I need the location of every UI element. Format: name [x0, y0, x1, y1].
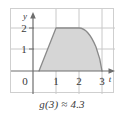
x-tick-label-2: 2 — [76, 75, 82, 87]
y-axis-label: y — [22, 11, 27, 21]
plot-area: y t 2 1 0 1 2 3 — [10, 8, 114, 93]
y-tick-label-1: 1 — [21, 43, 27, 55]
x-axis-label: t — [109, 74, 112, 84]
x-tick-label-3: 3 — [99, 75, 105, 87]
x-tick-label-1: 1 — [53, 75, 59, 87]
x-tick-label-0: 0 — [22, 75, 28, 87]
caption-text: g(3) ≈ 4.3 — [39, 98, 85, 110]
y-axis — [30, 12, 36, 94]
y-tick-label-2: 2 — [21, 22, 27, 34]
shaded-area — [39, 28, 102, 71]
plot-svg: y t 2 1 0 1 2 3 — [11, 9, 115, 94]
figure-caption: g(3) ≈ 4.3 — [0, 98, 124, 110]
figure-container: y t 2 1 0 1 2 3 g(3) ≈ 4.3 — [0, 0, 124, 123]
